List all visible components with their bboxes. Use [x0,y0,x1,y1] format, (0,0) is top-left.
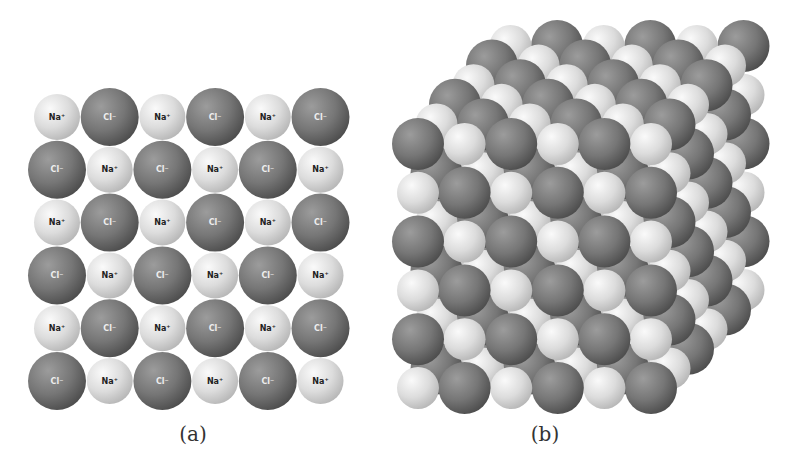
sodium-ion-sphere [444,221,486,263]
sodium-ion-sphere [630,221,672,263]
ion-label: Na⁺ [154,324,170,333]
ion-label: Na⁺ [260,324,276,333]
sodium-ion-sphere [397,269,439,311]
chloride-ion [625,362,677,414]
chloride-ion: Cl⁻ [292,299,350,357]
ion-label: Cl⁻ [209,218,222,227]
ion-label: Cl⁻ [156,165,169,174]
sodium-ion-sphere [583,172,625,214]
chloride-ion: Cl⁻ [239,141,297,199]
chloride-ion: Cl⁻ [133,141,191,199]
sodium-ion [490,367,532,409]
chloride-ion-sphere [485,216,537,268]
chloride-ion [578,118,630,170]
chloride-ion [485,118,537,170]
ion-label: Cl⁻ [103,113,116,122]
ion-label: Na⁺ [49,324,65,333]
sodium-ion-sphere [397,172,439,214]
ion-label: Na⁺ [207,165,223,174]
sodium-ion-sphere [444,123,486,165]
ion-label: Na⁺ [207,271,223,280]
sodium-ion: Na⁺ [192,358,238,404]
chloride-ion: Cl⁻ [81,299,139,357]
caption-a: (a) [179,422,207,446]
chloride-ion-sphere [439,167,491,219]
chloride-ion-sphere [625,264,677,316]
chloride-ion: Cl⁻ [28,141,86,199]
chloride-ion: Cl⁻ [81,88,139,146]
chloride-ion-sphere [392,216,444,268]
sodium-ion [537,221,579,263]
sodium-ion-sphere [490,269,532,311]
ion-label: Cl⁻ [209,113,222,122]
sodium-ion [537,318,579,360]
sodium-ion-sphere [583,367,625,409]
chloride-ion [532,264,584,316]
chloride-ion [532,362,584,414]
ion-label: Cl⁻ [261,271,274,280]
ion-label: Cl⁻ [51,271,64,280]
sodium-ion: Na⁺ [192,147,238,193]
ion-label: Na⁺ [49,218,65,227]
chloride-ion-sphere [578,118,630,170]
chloride-ion-sphere [578,313,630,365]
panel-b-3d-lattice [392,20,770,414]
nacl-crystal-figure: Na⁺Cl⁻Na⁺Cl⁻Na⁺Cl⁻Cl⁻Na⁺Cl⁻Na⁺Cl⁻Na⁺Na⁺C… [0,0,788,476]
sodium-ion [397,367,439,409]
sodium-ion: Na⁺ [139,200,185,246]
chloride-ion: Cl⁻ [292,194,350,252]
ion-label: Cl⁻ [156,271,169,280]
sodium-ion [444,123,486,165]
ion-label: Cl⁻ [209,324,222,333]
chloride-ion: Cl⁻ [239,352,297,410]
sodium-ion-sphere [537,318,579,360]
sodium-ion: Na⁺ [298,358,344,404]
ion-label: Cl⁻ [314,324,327,333]
ion-label: Na⁺ [312,271,328,280]
sodium-ion [630,318,672,360]
chloride-ion [392,118,444,170]
chloride-ion [439,362,491,414]
ion-label: Cl⁻ [156,377,169,386]
chloride-ion-sphere [625,362,677,414]
panel-a-2d-lattice: Na⁺Cl⁻Na⁺Cl⁻Na⁺Cl⁻Cl⁻Na⁺Cl⁻Na⁺Cl⁻Na⁺Na⁺C… [28,88,350,410]
sodium-ion-sphere [397,367,439,409]
chloride-ion: Cl⁻ [186,194,244,252]
chloride-ion [485,216,537,268]
sodium-ion-sphere [583,269,625,311]
sodium-ion: Na⁺ [245,200,291,246]
ion-label: Na⁺ [154,113,170,122]
chloride-ion-sphere [392,118,444,170]
chloride-ion-sphere [578,216,630,268]
ion-label: Na⁺ [312,165,328,174]
chloride-ion-sphere [439,264,491,316]
ion-label: Cl⁻ [261,377,274,386]
sodium-ion: Na⁺ [139,94,185,140]
ion-label: Cl⁻ [103,324,116,333]
chloride-ion: Cl⁻ [81,194,139,252]
sodium-ion: Na⁺ [298,252,344,298]
chloride-ion-sphere [532,264,584,316]
sodium-ion [397,172,439,214]
ion-label: Na⁺ [102,165,118,174]
chloride-ion: Cl⁻ [133,246,191,304]
ion-label: Cl⁻ [51,165,64,174]
sodium-ion: Na⁺ [34,305,80,351]
chloride-ion [625,167,677,219]
sodium-ion [444,221,486,263]
sodium-ion: Na⁺ [34,200,80,246]
sodium-ion-sphere [537,221,579,263]
sodium-ion: Na⁺ [245,305,291,351]
chloride-ion [578,313,630,365]
ion-label: Na⁺ [260,113,276,122]
chloride-ion-sphere [625,167,677,219]
chloride-ion-sphere [485,313,537,365]
chloride-ion: Cl⁻ [133,352,191,410]
ion-label: Cl⁻ [314,113,327,122]
ion-label: Na⁺ [207,377,223,386]
sodium-ion [583,367,625,409]
sodium-ion [444,318,486,360]
ion-label: Cl⁻ [261,165,274,174]
chloride-ion [392,313,444,365]
ion-label: Na⁺ [312,377,328,386]
